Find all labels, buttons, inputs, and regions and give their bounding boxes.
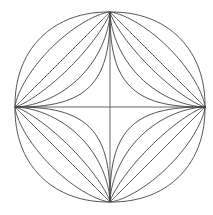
axes-group xyxy=(15,12,205,202)
figure-container xyxy=(0,0,213,215)
superellipse-family-diagram xyxy=(0,0,213,215)
